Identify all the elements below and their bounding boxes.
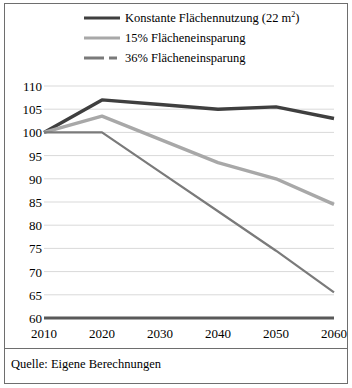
x-tick-label: 2050 [263,326,289,341]
x-axis-tick-labels: 201020202030204020502060 [44,326,334,344]
series-lines [44,100,334,293]
chart-canvas [0,0,344,381]
source-note: Quelle: Eigene Berechnungen [11,356,161,372]
x-tick-label: 2010 [31,326,57,341]
plot-area: 6065707580859095100105110 20102020203020… [0,0,344,381]
x-tick-label: 2020 [89,326,115,341]
x-tick-label: 2040 [205,326,231,341]
series-line-2 [44,132,334,292]
series-line-0 [44,100,334,132]
x-tick-label: 2060 [321,326,347,341]
x-tick-label: 2030 [147,326,173,341]
figure-container: Konstante Flächennutzung (22 m2) 15% Flä… [0,0,352,388]
source-divider [5,348,347,349]
